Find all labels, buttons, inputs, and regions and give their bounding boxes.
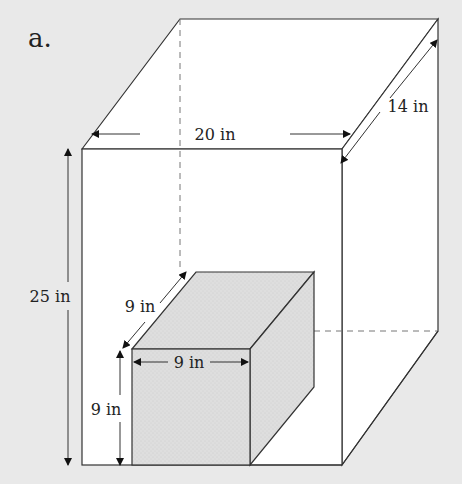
large-depth-label: 14 in (388, 97, 429, 116)
box-diagram: a. 20 in 14 in 25 in 9 in 9 in 9 in (0, 0, 462, 484)
large-width-label: 20 in (195, 125, 236, 144)
small-width-label: 9 in (174, 353, 205, 372)
figure-label: a. (28, 23, 52, 53)
small-depth-label: 9 in (125, 297, 156, 316)
small-height-label: 9 in (91, 400, 122, 419)
large-height-label: 25 in (30, 287, 71, 306)
